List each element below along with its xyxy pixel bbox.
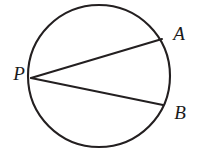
geometry-figure: P A B bbox=[0, 0, 201, 161]
point-label-p: P bbox=[12, 63, 25, 84]
point-label-a: A bbox=[171, 23, 185, 44]
circle-outline bbox=[28, 5, 170, 147]
chord-p-a bbox=[31, 39, 162, 78]
figure-canvas: P A B bbox=[0, 0, 201, 161]
chord-p-b bbox=[31, 78, 163, 105]
point-label-b: B bbox=[174, 102, 186, 123]
